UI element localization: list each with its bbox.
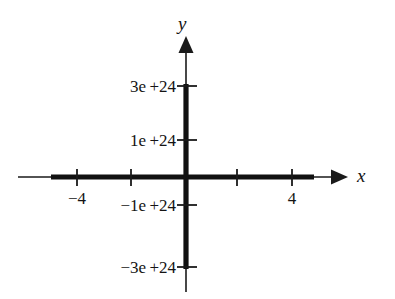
y-tick-label-3e24: 3e +24: [130, 78, 176, 95]
plot-canvas: [0, 0, 395, 299]
y-tick-label-1e24: 1e +24: [130, 132, 176, 149]
y-tick-label-neg1e24: −1e +24: [120, 197, 176, 214]
coordinate-plot-figure: 3e +24 1e +24 −1e +24 −3e +24 −4 4 x y: [0, 0, 395, 299]
y-axis-label: y: [178, 14, 186, 33]
x-tick-label-neg4: −4: [68, 190, 86, 207]
y-axis-arrowhead: [179, 36, 194, 53]
x-axis-label: x: [357, 166, 365, 185]
x-tick-label-pos4: 4: [288, 190, 297, 207]
y-tick-label-neg3e24: −3e +24: [120, 259, 176, 276]
x-axis-arrowhead: [331, 170, 348, 185]
